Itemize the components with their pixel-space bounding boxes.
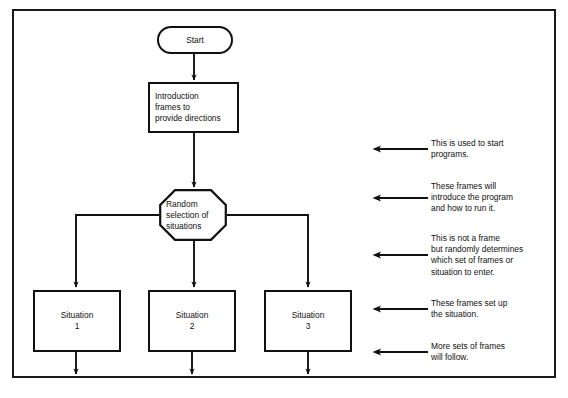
node-start-label: Start — [186, 35, 204, 46]
annotation-start-text: This is used to start programs. — [428, 138, 504, 160]
node-situation-1-label: Situation 1 — [61, 310, 94, 332]
annotation-decision-text: This is not a frame but randomly determi… — [428, 233, 523, 278]
flowchart-page: Start Introduction frames to provide dir… — [0, 0, 568, 398]
node-introduction: Introduction frames to provide direction… — [148, 82, 239, 133]
annotation-introduction: These frames will introduce the program … — [372, 181, 513, 215]
left-arrow-icon — [372, 346, 428, 358]
annotation-situations-text: These frames set up the situation. — [428, 298, 507, 320]
node-situation-3: Situation 3 — [264, 290, 352, 352]
left-arrow-icon — [372, 143, 428, 155]
left-arrow-icon — [372, 249, 428, 261]
left-arrow-icon — [372, 303, 428, 315]
node-introduction-label: Introduction frames to provide direction… — [150, 91, 237, 124]
annotation-introduction-text: These frames will introduce the program … — [428, 181, 513, 215]
annotation-decision: This is not a frame but randomly determi… — [372, 233, 523, 278]
node-situation-2: Situation 2 — [148, 290, 236, 352]
node-situation-1: Situation 1 — [33, 290, 121, 352]
annotation-situations: These frames set up the situation. — [372, 298, 507, 320]
node-decision: Random selection of situations — [159, 189, 227, 241]
left-arrow-icon — [372, 192, 428, 204]
node-situation-2-label: Situation 2 — [176, 310, 209, 332]
node-situation-3-label: Situation 3 — [292, 310, 325, 332]
node-start: Start — [157, 26, 233, 54]
annotation-more-frames: More sets of frames will follow. — [372, 341, 505, 363]
annotation-start: This is used to start programs. — [372, 138, 504, 160]
annotation-more-frames-text: More sets of frames will follow. — [428, 341, 505, 363]
node-decision-label: Random selection of situations — [159, 189, 227, 241]
